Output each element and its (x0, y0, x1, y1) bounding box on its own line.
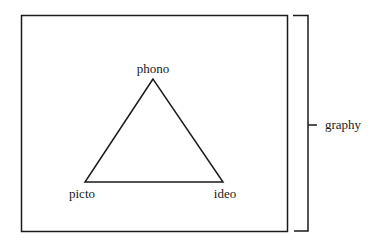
outer-box (22, 16, 288, 232)
vertex-label-phono: phono (137, 61, 170, 76)
vertex-label-ideo: ideo (214, 186, 236, 201)
bracket (293, 16, 308, 232)
bracket-label-graphy: graphy (325, 117, 362, 132)
diagram-canvas: phono picto ideo graphy (0, 0, 381, 243)
triangle (85, 79, 223, 182)
vertex-label-picto: picto (69, 186, 95, 201)
